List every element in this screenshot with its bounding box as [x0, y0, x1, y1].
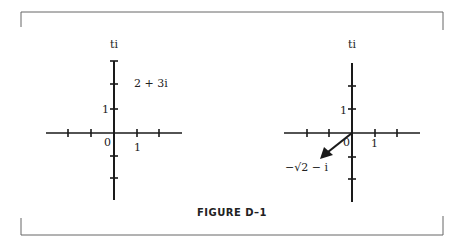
right-complex-plane: [284, 63, 420, 202]
left-imag-axis-label: ti: [110, 38, 118, 51]
figure-canvas: ti 2 + 3i 1 0 1 ti 1 0 1 −√2 − i FIGURE …: [0, 0, 462, 246]
right-origin-label: 0: [343, 136, 350, 149]
vector-label: −√2 − i: [285, 161, 328, 174]
figure-caption: FIGURE D–1: [197, 207, 267, 218]
left-tick-label-x: 1: [134, 141, 141, 154]
left-point-label: 2 + 3i: [134, 77, 168, 90]
right-tick-label-x: 1: [371, 137, 378, 150]
right-imag-axis-label: ti: [348, 38, 356, 51]
left-tick-label-y: 1: [102, 103, 109, 116]
figure-frame: [21, 12, 443, 235]
right-tick-label-y: 1: [340, 104, 347, 117]
left-origin-label: 0: [104, 136, 111, 149]
